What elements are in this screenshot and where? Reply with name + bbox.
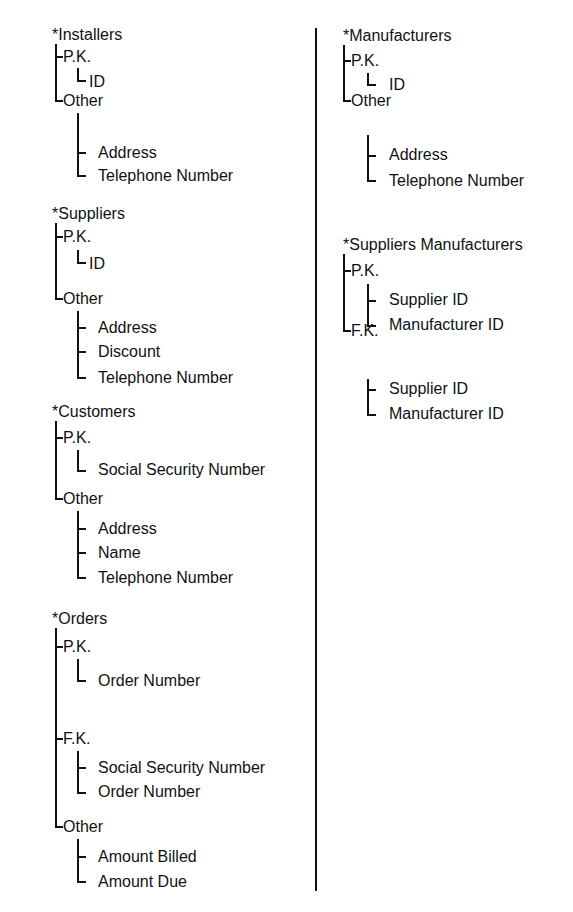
- group-label: F.K.: [351, 322, 379, 340]
- tree-branch: [55, 56, 63, 58]
- tree-branch: [55, 100, 63, 102]
- field-label: Telephone Number: [98, 167, 233, 185]
- tree-branch: [77, 175, 86, 177]
- tree-line: [367, 284, 369, 326]
- tree-branch: [343, 330, 351, 332]
- tree-line: [77, 311, 79, 379]
- field-label: ID: [89, 255, 105, 273]
- tree-line: [77, 751, 79, 793]
- tree-branch: [343, 100, 351, 102]
- field-label: ID: [389, 76, 405, 94]
- tree-branch: [55, 826, 63, 828]
- tree-branch: [55, 738, 63, 740]
- tree-branch: [77, 152, 86, 154]
- tree-line: [55, 421, 57, 499]
- field-label: Manufacturer ID: [389, 316, 504, 334]
- field-label: Discount: [98, 343, 160, 361]
- field-label: Amount Due: [98, 873, 187, 891]
- group-label: P.K.: [351, 52, 379, 70]
- table-title: *Manufacturers: [343, 27, 452, 45]
- tree-branch: [77, 856, 86, 858]
- group-label: P.K.: [63, 48, 91, 66]
- tree-branch: [367, 180, 376, 182]
- table-title: *Suppliers: [52, 205, 125, 223]
- tree-branch: [77, 528, 86, 530]
- field-label: Telephone Number: [98, 569, 233, 587]
- tree-branch: [343, 60, 351, 62]
- tree-line: [55, 223, 57, 299]
- tree-branch: [77, 470, 86, 472]
- tree-branch: [55, 498, 63, 500]
- tree-branch: [77, 680, 86, 682]
- tree-branch: [77, 881, 86, 883]
- field-label: Telephone Number: [389, 172, 524, 190]
- tree-branch: [77, 792, 86, 794]
- tree-line: [77, 450, 79, 471]
- field-label: Address: [389, 146, 448, 164]
- field-label: Address: [98, 144, 157, 162]
- tree-branch: [77, 351, 86, 353]
- tree-line: [343, 45, 345, 101]
- tree-branch: [55, 298, 63, 300]
- tree-branch: [55, 437, 63, 439]
- group-label: P.K.: [351, 262, 379, 280]
- tree-line: [77, 839, 79, 882]
- tree-branch: [55, 646, 63, 648]
- tree-line: [343, 254, 345, 331]
- group-label: P.K.: [63, 638, 91, 656]
- group-label: Other: [63, 818, 103, 836]
- tree-branch: [77, 577, 86, 579]
- table-title: *Suppliers Manufacturers: [343, 236, 523, 254]
- field-label: Supplier ID: [389, 291, 468, 309]
- group-label: Other: [63, 490, 103, 508]
- tree-branch: [343, 270, 351, 272]
- table-title: *Orders: [52, 610, 107, 628]
- tree-line: [77, 511, 79, 578]
- tree-line: [77, 659, 79, 681]
- tree-line: [77, 113, 79, 176]
- tree-branch: [367, 389, 376, 391]
- field-label: Social Security Number: [98, 461, 265, 479]
- field-label: Telephone Number: [98, 369, 233, 387]
- field-label: Supplier ID: [389, 380, 468, 398]
- tree-branch: [367, 300, 376, 302]
- tree-branch: [77, 262, 86, 264]
- table-title: *Customers: [52, 403, 136, 421]
- group-label: P.K.: [63, 429, 91, 447]
- tree-branch: [55, 236, 63, 238]
- tree-branch: [77, 377, 86, 379]
- field-label: Order Number: [98, 783, 200, 801]
- tree-branch: [367, 155, 376, 157]
- tree-branch: [77, 552, 86, 554]
- tree-branch: [77, 327, 86, 329]
- tree-line: [367, 135, 369, 181]
- tree-line: [55, 628, 57, 827]
- group-label: Other: [63, 290, 103, 308]
- tree-branch: [367, 84, 376, 86]
- tree-branch: [77, 767, 86, 769]
- tree-branch: [77, 80, 86, 82]
- tree-line: [55, 44, 57, 102]
- tree-branch: [367, 414, 376, 416]
- field-label: Address: [98, 520, 157, 538]
- table-title: *Installers: [52, 26, 122, 44]
- field-label: Manufacturer ID: [389, 405, 504, 423]
- group-label: Other: [63, 92, 103, 110]
- group-label: F.K.: [63, 730, 91, 748]
- group-label: Other: [351, 92, 391, 110]
- field-label: Social Security Number: [98, 759, 265, 777]
- group-label: P.K.: [63, 228, 91, 246]
- field-label: ID: [89, 73, 105, 91]
- field-label: Order Number: [98, 672, 200, 690]
- field-label: Amount Billed: [98, 848, 197, 866]
- field-label: Name: [98, 544, 141, 562]
- tree-line: [367, 379, 369, 415]
- field-label: Address: [98, 319, 157, 337]
- column-divider: [315, 28, 317, 891]
